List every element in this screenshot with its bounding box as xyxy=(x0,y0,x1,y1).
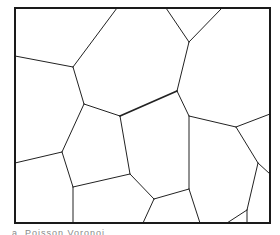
cell-edge xyxy=(247,163,258,210)
cell-edge xyxy=(120,91,177,116)
cell-edge xyxy=(154,189,189,199)
cell-edge xyxy=(73,8,117,67)
cell-edge xyxy=(62,104,84,152)
cell-edge xyxy=(177,91,189,116)
cell-edge xyxy=(189,8,222,42)
cell-edge xyxy=(73,67,84,104)
cell-edge xyxy=(120,116,130,174)
cell-edge xyxy=(15,152,62,163)
cell-edge xyxy=(236,127,258,163)
cell-edge xyxy=(189,116,236,127)
cell-edge xyxy=(166,8,189,42)
cell-edge xyxy=(227,210,247,223)
figure-caption: a. Poisson Voronoi xyxy=(12,228,105,235)
cell-edge xyxy=(130,174,154,199)
voronoi-diagram xyxy=(0,0,280,235)
cell-edge xyxy=(73,174,130,187)
diagram-frame xyxy=(15,8,270,223)
cell-edge xyxy=(62,152,73,187)
cell-edge xyxy=(236,114,270,127)
cell-edge xyxy=(189,189,200,223)
cell-edge xyxy=(143,199,154,223)
cell-edge xyxy=(15,56,73,67)
cell-edge xyxy=(177,42,189,91)
cell-edge xyxy=(84,104,120,116)
cell-edge xyxy=(258,163,270,174)
